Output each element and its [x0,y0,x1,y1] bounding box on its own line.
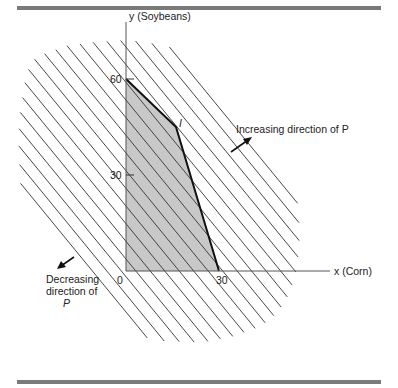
x-tick-label-30: 30 [216,274,228,286]
origin-label: 0 [117,274,123,286]
lp-diagram: y (Soybeans) x (Corn) 60 30 0 30 I Incre… [0,0,398,388]
y-axis-label: y (Soybeans) [129,10,191,22]
y-tick-label-60: 60 [110,73,122,85]
decreasing-arrow-icon [57,257,74,269]
vertex-label: I [179,117,182,129]
x-axis-label: x (Corn) [334,265,372,277]
decreasing-label-line2: direction of [46,285,97,297]
increasing-direction-label: Increasing direction of P [236,123,349,135]
decreasing-label-line3: P [63,297,70,309]
decreasing-label-line1: Decreasing [46,273,99,285]
y-tick-label-30: 30 [110,169,122,181]
